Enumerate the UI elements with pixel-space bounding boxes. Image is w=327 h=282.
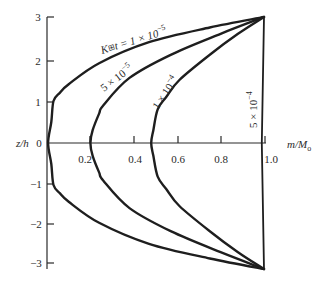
y-tick-label: −1	[30, 178, 42, 190]
y-tick-labels: 3 2 1 0 −1 −2 −3	[30, 11, 42, 269]
y-tick-label: 0	[36, 137, 42, 149]
x-tick-label: 1.0	[264, 153, 278, 165]
x-axis-label: m/Mo	[287, 138, 311, 153]
y-tick-label: −3	[30, 257, 42, 269]
curve-label-5e-4: 5 × 10−4	[245, 91, 259, 128]
y-tick-label: 2	[35, 55, 41, 67]
x-tick-label: 0.6	[171, 153, 185, 165]
x-tick-label: 0.4	[128, 153, 142, 165]
y-axis-label: z/h	[15, 137, 29, 149]
y-tick-label: −2	[30, 218, 42, 230]
x-ticks	[90, 136, 265, 143]
x-tick-label: 0.8	[214, 153, 228, 165]
curve-label-1e-4: 1 × 10−4	[148, 73, 180, 111]
x-tick-labels: 0.2 0.4 0.6 0.8 1.0	[78, 153, 278, 165]
y-tick-label: 3	[35, 11, 41, 23]
y-tick-label: 1	[35, 96, 41, 108]
profile-chart: 3 2 1 0 −1 −2 −3 0.2 0.4 0.6 0.8 1.0 z/h…	[0, 0, 327, 282]
x-tick-label: 0.2	[78, 153, 92, 165]
